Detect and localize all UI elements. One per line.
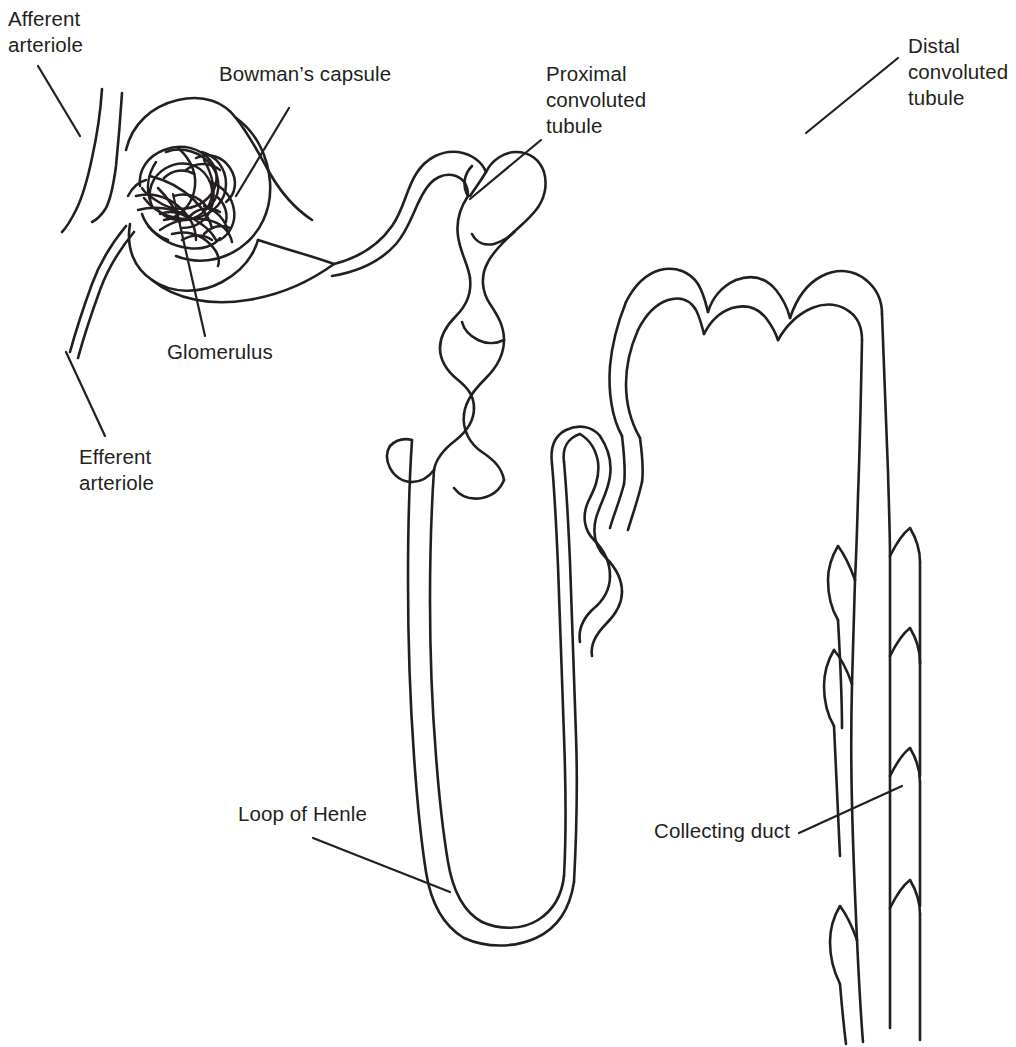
- label-glomerulus: Glomerulus: [167, 339, 273, 365]
- leader-distal-tubule: [806, 58, 898, 133]
- nephron-diagram-page: Afferent arteriole Bowman’s capsule Prox…: [0, 0, 1016, 1047]
- leader-proximal-tubule: [470, 140, 541, 199]
- label-proximal-convoluted-tubule: Proximal convoluted tubule: [546, 61, 646, 139]
- label-loop-of-henle: Loop of Henle: [238, 801, 367, 827]
- nephron-illustration: [0, 0, 1016, 1047]
- proximal-convoluted-tubule: [332, 152, 546, 499]
- distal-convoluted-tubule: [580, 269, 867, 656]
- glomerulus-capillary-tuft: [128, 147, 235, 266]
- label-efferent-arteriole: Efferent arteriole: [79, 444, 154, 496]
- label-collecting-duct: Collecting duct: [654, 818, 790, 844]
- leader-afferent-arteriole: [38, 66, 80, 136]
- label-afferent-arteriole: Afferent arteriole: [8, 6, 83, 58]
- collecting-duct: [824, 280, 920, 1044]
- leader-efferent-arteriole: [66, 352, 105, 436]
- afferent-arteriole-vessel: [62, 89, 122, 232]
- loop-of-henle: [408, 427, 600, 946]
- label-bowmans-capsule: Bowman’s capsule: [219, 61, 391, 87]
- label-distal-convoluted-tubule: Distal convoluted tubule: [908, 33, 1008, 111]
- efferent-arteriole-vessel: [70, 226, 134, 358]
